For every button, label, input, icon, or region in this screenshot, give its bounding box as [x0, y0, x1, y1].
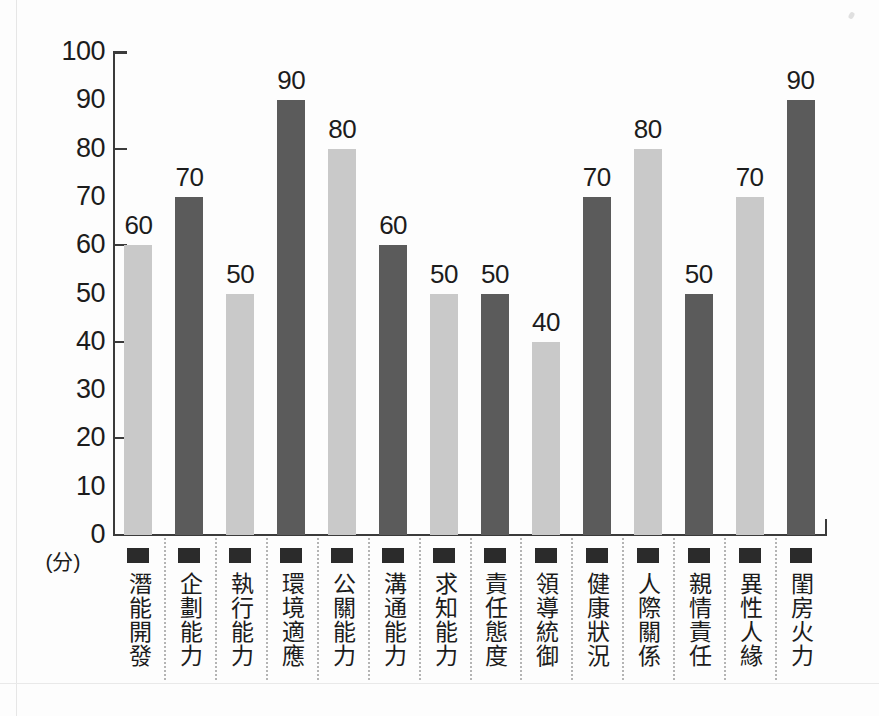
bar[interactable]: [736, 197, 764, 535]
bar[interactable]: [787, 100, 815, 535]
page-canvas: 1009080706050403020100 (分) 6070509080605…: [0, 0, 879, 716]
category-label-text: 閨房火力: [788, 572, 813, 668]
category-label[interactable]: 人際關係: [622, 548, 673, 668]
square-bullet-icon: [790, 548, 812, 563]
x-axis-right-cap: [825, 519, 827, 536]
y-axis-tick-label: 70: [15, 183, 105, 210]
category-label[interactable]: 公關能力: [317, 548, 368, 668]
y-axis-tick-label: 60: [15, 231, 105, 258]
y-axis-unit-label: (分): [18, 545, 108, 575]
y-axis-tick-label: 90: [15, 86, 105, 113]
y-axis-tick-mark: [113, 148, 127, 150]
category-label[interactable]: 環境適應: [266, 548, 317, 668]
bar-value-label: 70: [159, 164, 219, 190]
bar-value-label: 60: [363, 212, 423, 238]
square-bullet-icon: [433, 548, 455, 563]
bar-value-label: 50: [669, 261, 729, 287]
category-label-text: 健康狀況: [584, 572, 609, 668]
category-label[interactable]: 責任態度: [470, 548, 521, 668]
category-label-text: 執行能力: [228, 572, 253, 668]
bar-value-label: 60: [108, 212, 168, 238]
category-label-text: 環境適應: [279, 572, 304, 668]
category-label-text: 責任態度: [482, 572, 507, 668]
bar[interactable]: [226, 294, 254, 536]
category-label[interactable]: 領導統御: [520, 548, 571, 668]
bar-value-label: 70: [720, 164, 780, 190]
category-label-text: 求知能力: [432, 572, 457, 668]
square-bullet-icon: [382, 548, 404, 563]
bar-value-label: 50: [210, 261, 270, 287]
category-label-text: 異性人緣: [737, 572, 762, 668]
square-bullet-icon: [739, 548, 761, 563]
y-axis-tick-label: 30: [15, 376, 105, 403]
category-label[interactable]: 親情責任: [673, 548, 724, 668]
bar[interactable]: [124, 245, 152, 535]
bar-chart: 1009080706050403020100 (分) 6070509080605…: [0, 0, 879, 716]
bar[interactable]: [481, 294, 509, 536]
bar[interactable]: [430, 294, 458, 536]
category-label[interactable]: 執行能力: [215, 548, 266, 668]
category-label-text: 公關能力: [330, 572, 355, 668]
bar-value-label: 90: [261, 67, 321, 93]
y-axis-tick-label: 50: [15, 280, 105, 307]
square-bullet-icon: [229, 548, 251, 563]
category-label-text: 企劃能力: [177, 572, 202, 668]
x-axis-line: [113, 534, 827, 536]
square-bullet-icon: [535, 548, 557, 563]
bar-value-label: 80: [618, 116, 678, 142]
square-bullet-icon: [586, 548, 608, 563]
square-bullet-icon: [178, 548, 200, 563]
category-label[interactable]: 企劃能力: [164, 548, 215, 668]
y-axis-tick-labels: 1009080706050403020100: [0, 0, 105, 536]
bar-value-label: 40: [516, 309, 576, 335]
y-axis-line: [113, 52, 115, 536]
y-axis-tick-label: 10: [15, 473, 105, 500]
y-axis-tick-label: 0: [15, 521, 105, 548]
bar[interactable]: [328, 149, 356, 535]
square-bullet-icon: [688, 548, 710, 563]
bar[interactable]: [532, 342, 560, 535]
category-label-text: 潛能開發: [126, 572, 151, 668]
bar-value-label: 50: [465, 261, 525, 287]
bar[interactable]: [685, 294, 713, 536]
y-axis-tick-label: 40: [15, 328, 105, 355]
bar-value-label: 90: [771, 67, 831, 93]
category-label[interactable]: 異性人緣: [724, 548, 775, 668]
category-label-text: 溝通能力: [381, 572, 406, 668]
category-label-text: 人際關係: [635, 572, 660, 668]
category-label[interactable]: 溝通能力: [368, 548, 419, 668]
category-label-text: 領導統御: [533, 572, 558, 668]
bar[interactable]: [379, 245, 407, 535]
bar[interactable]: [175, 197, 203, 535]
bar-value-label: 80: [312, 116, 372, 142]
square-bullet-icon: [127, 548, 149, 563]
category-label[interactable]: 閨房火力: [775, 548, 826, 668]
bar[interactable]: [277, 100, 305, 535]
square-bullet-icon: [331, 548, 353, 563]
y-axis-tick-label: 20: [15, 424, 105, 451]
category-label[interactable]: 求知能力: [419, 548, 470, 668]
category-label[interactable]: 潛能開發: [113, 548, 164, 668]
square-bullet-icon: [637, 548, 659, 563]
bar-value-label: 70: [567, 164, 627, 190]
y-axis-tick-label: 80: [15, 135, 105, 162]
y-axis-tick-label: 100: [15, 38, 105, 65]
bar[interactable]: [583, 197, 611, 535]
bar[interactable]: [634, 149, 662, 535]
square-bullet-icon: [280, 548, 302, 563]
category-label[interactable]: 健康狀況: [571, 548, 622, 668]
category-label-text: 親情責任: [686, 572, 711, 668]
square-bullet-icon: [484, 548, 506, 563]
y-axis-tick-mark: [113, 51, 127, 53]
